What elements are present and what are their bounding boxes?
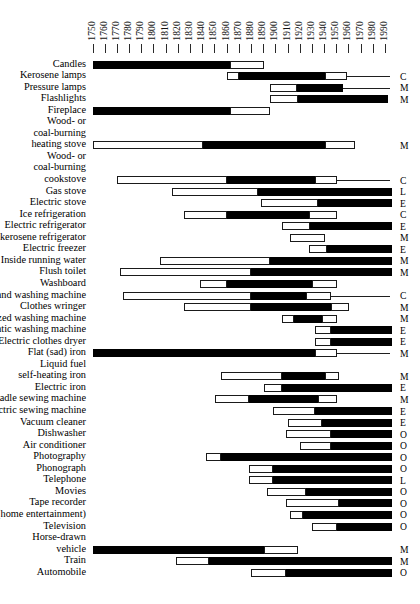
x-axis-tick [117,44,118,53]
row-category-code: M [400,256,409,266]
x-axis-tick [153,44,154,53]
bar-segment-introduction [267,488,306,496]
row-category-code: M [400,95,409,105]
row-label: vehicle [56,544,86,555]
row-label: Radio (home entertainment) [0,509,86,520]
x-axis-tick [202,44,203,53]
row-category-code: M [400,303,409,313]
bar-segment-decline [325,72,347,80]
bar-segment-diffusion [331,442,392,450]
row-category-code: M [400,83,409,93]
row-category-code: O [400,522,407,532]
bar-segment-diffusion [282,384,392,392]
row-label: Liquid fuel [40,359,86,370]
x-axis-tick [129,44,130,53]
bar-segment-introduction [282,315,294,323]
row-category-code: L [400,476,406,486]
bar-segment-introduction [176,557,209,565]
bar-segment-diffusion [270,257,392,265]
bar-segment-diffusion [273,465,391,473]
bar-segment-diffusion [203,141,325,149]
bar-segment-introduction [288,419,322,427]
bar-segment-introduction [290,234,324,242]
row-label: Treadle sewing machine [0,393,86,404]
bar-segment-introduction [123,292,251,300]
bar-segment-diffusion [294,315,322,323]
x-axis-tick [190,44,191,53]
bar-segment-introduction [200,280,227,288]
row-label: Ice refrigeration [19,209,86,220]
x-axis-tick [324,44,325,53]
bar-segment-diffusion [221,453,392,461]
bar-segment-diffusion [251,268,391,276]
bar-segment-diffusion [209,557,392,565]
row-label: Electric refrigerator [5,220,86,231]
x-axis-tick-label: 1830 [185,21,195,41]
row-category-code: M [400,141,409,151]
row-label: Electric sewing machine [0,405,86,416]
bar-segment-diffusion [318,199,391,207]
row-category-code: O [400,510,407,520]
row-label: Flat (sad) iron [28,347,86,358]
x-axis-tick [93,44,94,53]
row-category-code: O [400,487,407,497]
x-axis-tick-label: 1780 [124,21,134,41]
row-label: Candles [53,59,86,70]
bar-segment-introduction [300,442,330,450]
x-axis-tick [373,44,374,53]
bar-segment-diffusion [93,546,264,554]
bar-segment-introduction [315,326,331,334]
bar-segment-introduction [282,222,310,230]
bar-segment-diffusion [322,419,391,427]
x-axis-tick [275,44,276,53]
row-label: Automatic washing machine [0,324,86,335]
bar-segment-diffusion [303,511,392,519]
bar-segment-introduction [264,384,282,392]
bar-segment-introduction [117,176,227,184]
x-axis-tick [300,44,301,53]
row-label: Kerosene lamps [20,70,86,81]
x-axis-tick-label: 1950 [331,21,341,41]
bar-segment-decline [325,141,355,149]
x-axis-tick-label: 1870 [234,21,244,41]
bar-segment-diffusion [315,407,392,415]
bar-segment-decline [309,211,337,219]
bar-segment-diffusion [310,222,392,230]
bar-segment-diffusion [298,95,388,103]
x-axis-tick-label: 1930 [307,21,317,41]
bar-segment-diffusion [337,523,392,531]
row-label: Inside running water [1,255,86,266]
bar-segment-introduction [315,338,331,346]
bar-segment-decline [264,546,298,554]
x-axis-tick-label: 1840 [197,21,207,41]
bar-segment-introduction [286,430,331,438]
bar-segment-introduction [215,395,249,403]
row-label: Electric clothes dryer [0,336,86,347]
x-axis-tick-label: 1960 [343,21,353,41]
bar-segment-diffusion [227,176,315,184]
row-label: Tape recorder [29,497,86,508]
row-label: Gas stove [46,186,86,197]
row-category-code: M [400,349,409,359]
row-category-code: O [400,430,407,440]
row-label: Movies [55,486,86,497]
technology-diffusion-timeline-chart: 1750176017701780179018001810182018301840… [0,0,420,604]
x-axis-tick-label: 1910 [283,21,293,41]
row-label: Electric stove [30,197,86,208]
x-axis-tick-label: 1790 [136,21,146,41]
x-axis-tick [141,44,142,53]
x-axis-tick-label: 1770 [112,21,122,41]
x-axis-tick [105,44,106,53]
bar-segment-introduction [312,523,336,531]
x-axis-tick-label: 1760 [100,21,110,41]
bar-segment-diffusion [286,569,392,577]
x-axis-tick [178,44,179,53]
row-label: self-heating iron [18,370,86,381]
bar-segment-introduction [261,199,318,207]
x-axis-tick-label: 1940 [319,21,329,41]
bar-segment-diffusion [331,338,392,346]
row-category-code: O [400,464,407,474]
x-axis-tick [288,44,289,53]
row-category-code: O [400,441,407,451]
row-label: Air conditioner [23,440,86,451]
